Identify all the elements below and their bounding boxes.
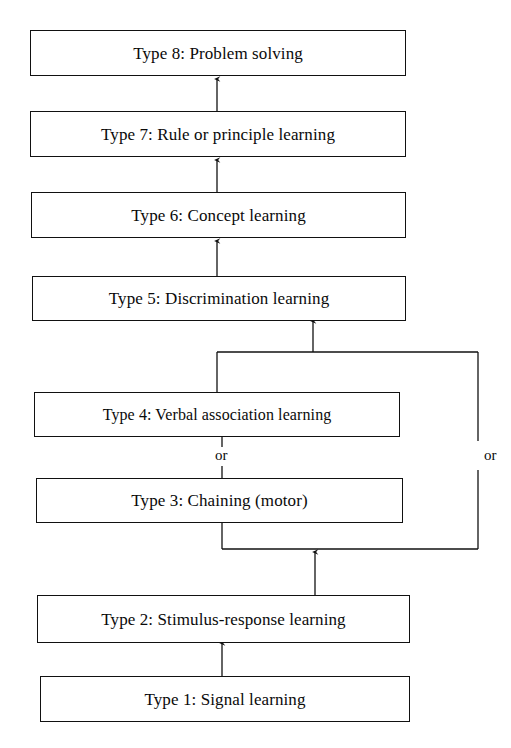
node-type2[interactable]: Type 2: Stimulus-response learning <box>37 595 410 643</box>
node-type7[interactable]: Type 7: Rule or principle learning <box>30 111 406 157</box>
node-type3-label: Type 3: Chaining (motor) <box>131 492 307 509</box>
or-label-right: or <box>481 447 500 464</box>
node-type4[interactable]: Type 4: Verbal association learning <box>34 392 400 437</box>
node-type8[interactable]: Type 8: Problem solving <box>30 30 406 76</box>
node-type8-label: Type 8: Problem solving <box>133 45 303 62</box>
node-type6-label: Type 6: Concept learning <box>131 207 305 224</box>
node-type5[interactable]: Type 5: Discrimination learning <box>32 276 406 321</box>
node-type4-label: Type 4: Verbal association learning <box>103 407 332 423</box>
node-type7-label: Type 7: Rule or principle learning <box>101 126 335 143</box>
node-type1[interactable]: Type 1: Signal learning <box>40 676 410 722</box>
node-type3[interactable]: Type 3: Chaining (motor) <box>36 478 403 523</box>
node-type2-label: Type 2: Stimulus-response learning <box>101 611 345 628</box>
node-type1-label: Type 1: Signal learning <box>144 691 305 708</box>
diagram-canvas: Type 8: Problem solving Type 7: Rule or … <box>0 0 511 748</box>
or-label-middle: or <box>212 447 231 464</box>
node-type5-label: Type 5: Discrimination learning <box>109 290 330 307</box>
node-type6[interactable]: Type 6: Concept learning <box>31 192 406 238</box>
